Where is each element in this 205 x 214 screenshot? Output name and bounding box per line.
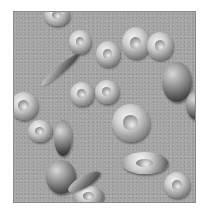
red-blood-cell [28,120,52,142]
red-blood-cell [96,41,120,67]
red-blood-cell [69,30,91,54]
red-blood-cell [164,172,190,198]
red-blood-cell [147,32,173,60]
red-blood-cell [122,27,150,59]
red-blood-cell [186,90,196,120]
red-blood-cell [112,104,150,142]
blood-cell-image [13,11,196,203]
red-blood-cell [13,92,38,120]
red-blood-cell [122,152,168,174]
red-blood-cell [70,82,94,106]
red-blood-cell [54,120,72,156]
red-blood-cell [44,11,70,26]
red-blood-cell [95,80,119,104]
